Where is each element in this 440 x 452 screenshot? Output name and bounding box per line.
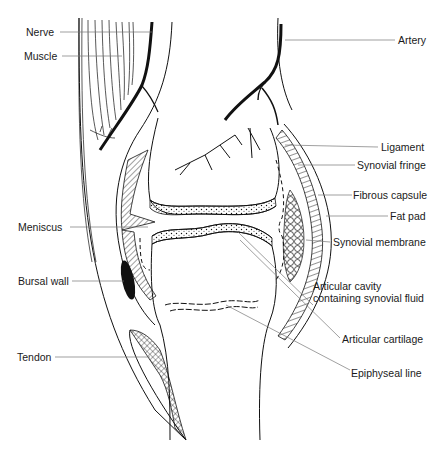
tibial-cartilage <box>152 224 272 246</box>
label-synovial-membrane: Synovial membrane <box>333 236 426 248</box>
fat-pad <box>283 190 304 282</box>
label-bursal-wall: Bursal wall <box>18 275 69 287</box>
label-muscle: Muscle <box>24 50 57 62</box>
tendon <box>130 330 186 440</box>
label-articular-cartilage: Articular cartilage <box>342 333 423 345</box>
label-tendon: Tendon <box>17 351 51 363</box>
label-synovial-fringe: Synovial fringe <box>357 159 426 171</box>
label-meniscus: Meniscus <box>18 221 62 233</box>
label-fat-pad: Fat pad <box>390 210 426 222</box>
knee-joint-diagram <box>0 0 440 452</box>
label-fibrous-capsule: Fibrous capsule <box>353 189 427 201</box>
nerve-path <box>100 22 152 150</box>
femoral-cartilage <box>150 198 276 215</box>
label-ligament: Ligament <box>381 141 424 153</box>
femur <box>148 118 279 215</box>
tibia <box>151 224 276 440</box>
leader-lines <box>55 32 395 370</box>
synovial-membrane <box>276 160 284 280</box>
label-artery: Artery <box>398 34 426 46</box>
label-epiphyseal-line: Epiphyseal line <box>351 367 422 379</box>
label-articular-cavity: Articular cavity containing synovial flu… <box>313 280 424 304</box>
label-nerve: Nerve <box>26 26 54 38</box>
